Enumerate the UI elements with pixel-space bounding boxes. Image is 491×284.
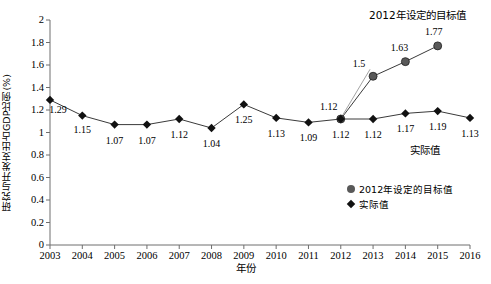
y-axis-ticks (46, 20, 50, 245)
x-tick-label: 2009 (226, 251, 262, 262)
y-tick-label: 0.6 (12, 173, 44, 184)
legend-item-target[interactable]: 2012年设定的目标值 (347, 182, 453, 196)
data-label-actual: 1.07 (99, 136, 131, 146)
data-label-actual: 1.04 (196, 139, 228, 149)
annotation-target-series: 2012年设定的目标值 (369, 10, 466, 21)
data-point-actual[interactable] (401, 109, 409, 117)
data-label-target: 1.5 (343, 59, 375, 69)
data-label-actual: 1.29 (42, 105, 74, 115)
x-tick-label: 2005 (97, 251, 133, 262)
y-axis-title: 研究与开发支出占GDP比例(%) (2, 58, 12, 228)
x-tick-label: 2016 (452, 251, 488, 262)
data-point-actual[interactable] (78, 111, 86, 119)
data-label-target: 1.63 (383, 43, 415, 53)
x-tick-label: 2006 (129, 251, 165, 262)
circle-marker-icon (347, 185, 355, 193)
y-tick-label: 0.8 (12, 150, 44, 161)
annotation-leader-lines (343, 69, 370, 115)
y-tick-label: 0 (12, 240, 44, 251)
y-tick-label: 1.2 (12, 105, 44, 116)
data-point-actual[interactable] (434, 107, 442, 115)
data-label-actual: 1.12 (163, 130, 195, 140)
x-axis-title: 年份 (0, 263, 491, 274)
data-point-actual[interactable] (207, 124, 215, 132)
legend-label-target: 2012年设定的目标值 (359, 182, 453, 196)
data-point-actual[interactable] (143, 120, 151, 128)
data-point-target[interactable] (401, 58, 409, 66)
data-point-actual[interactable] (304, 118, 312, 126)
data-label-actual: 1.12 (357, 130, 389, 140)
x-tick-label: 2013 (355, 251, 391, 262)
chart-container: 研究与开发支出占GDP比例(%) 年份 2012年设定的目标值 实际值 2012… (0, 0, 491, 284)
diamond-marker-icon (347, 200, 355, 208)
data-label-actual: 1.07 (131, 136, 163, 146)
data-label-target: 1.77 (418, 27, 450, 37)
data-point-actual[interactable] (46, 96, 54, 104)
data-label-actual: 1.12 (325, 130, 357, 140)
x-tick-label: 2011 (290, 251, 326, 262)
annotation-actual-series: 实际值 (410, 145, 440, 156)
data-point-actual[interactable] (175, 115, 183, 123)
legend-label-actual: 实际值 (359, 197, 389, 211)
data-label-actual: 1.25 (228, 115, 260, 125)
data-label-actual: 1.13 (260, 129, 292, 139)
y-tick-label: 1.4 (12, 83, 44, 94)
data-point-actual[interactable] (110, 120, 118, 128)
data-point-actual[interactable] (369, 115, 377, 123)
legend-item-actual[interactable]: 实际值 (347, 197, 389, 211)
data-point-actual[interactable] (466, 114, 474, 122)
data-point-actual[interactable] (272, 114, 280, 122)
x-tick-label: 2014 (387, 251, 423, 262)
data-label-target: 1.12 (313, 102, 345, 112)
x-tick-label: 2015 (420, 251, 456, 262)
x-tick-label: 2008 (194, 251, 230, 262)
y-tick-label: 1 (12, 128, 44, 139)
x-tick-label: 2012 (323, 251, 359, 262)
data-label-actual: 1.15 (66, 125, 98, 135)
x-tick-label: 2004 (64, 251, 100, 262)
leader-line-target (343, 69, 370, 115)
y-tick-label: 2 (12, 15, 44, 26)
y-tick-label: 0.2 (12, 218, 44, 229)
data-label-actual: 1.09 (292, 133, 324, 143)
data-point-actual[interactable] (240, 100, 248, 108)
y-tick-label: 0.4 (12, 195, 44, 206)
plot-area (0, 0, 491, 284)
x-tick-label: 2003 (32, 251, 68, 262)
data-label-actual: 1.13 (454, 129, 486, 139)
data-point-target[interactable] (434, 42, 442, 50)
series-line-target (341, 46, 438, 119)
data-label-actual: 1.19 (422, 122, 454, 132)
x-axis-ticks (50, 245, 470, 249)
data-label-actual: 1.17 (389, 124, 421, 134)
y-tick-label: 1.8 (12, 38, 44, 49)
x-tick-label: 2007 (161, 251, 197, 262)
x-tick-label: 2010 (258, 251, 294, 262)
y-tick-label: 1.6 (12, 60, 44, 71)
data-series-group (46, 42, 474, 132)
data-point-target[interactable] (369, 72, 377, 80)
